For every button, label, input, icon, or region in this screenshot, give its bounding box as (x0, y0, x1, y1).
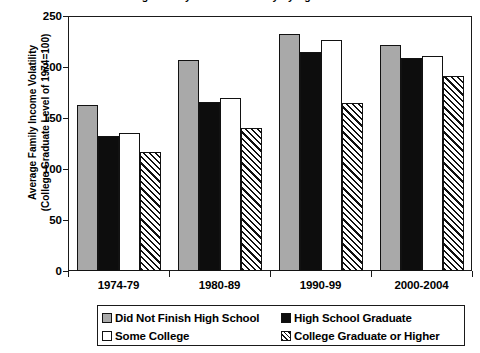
bar (279, 34, 300, 271)
legend-item-3: College Graduate or Higher (281, 327, 460, 345)
bar (401, 58, 422, 271)
x-axis-labels: 1974-791980-891990-992000-2004 (68, 279, 472, 291)
bar (140, 152, 161, 271)
bar-group (371, 16, 472, 271)
x-axis-tick-mark (68, 271, 69, 277)
y-axis-tick-label: 150 (0, 113, 62, 123)
x-axis-tick-label: 1990-99 (270, 279, 371, 291)
bar (241, 128, 262, 271)
chart-title: Average Family Income Volatility by Age … (62, 0, 480, 2)
bar (98, 136, 119, 271)
x-axis-ticks (68, 271, 472, 277)
y-axis-title-line-1: Average Family Income Volatility (27, 0, 40, 248)
legend-swatch-white-icon (102, 331, 112, 341)
bar-groups (68, 16, 472, 271)
bar (380, 45, 401, 271)
x-axis-tick-label: 1974-79 (68, 279, 169, 291)
bar (300, 52, 321, 271)
legend-label-3: College Graduate or Higher (294, 330, 440, 342)
y-axis-tick-label: 250 (0, 11, 62, 21)
bar-group (68, 16, 169, 271)
y-axis-tick-label: 0 (0, 266, 62, 276)
x-axis-tick-mark (169, 271, 170, 277)
bar (342, 103, 363, 271)
legend-label-2: Some College (115, 330, 189, 342)
bar (199, 102, 220, 271)
bar (220, 98, 241, 271)
bar-group (169, 16, 270, 271)
x-axis-tick-mark (371, 271, 372, 277)
legend-swatch-gray-icon (102, 313, 112, 323)
x-axis-tick-mark (270, 271, 271, 277)
bar-group (270, 16, 371, 271)
income-volatility-bar-chart: Average Family Income Volatility by Age … (0, 0, 480, 353)
legend-item-2: Some College (102, 327, 281, 345)
legend-item-1: High School Graduate (281, 309, 460, 327)
legend-item-0: Did Not Finish High School (102, 309, 281, 327)
bar (178, 60, 199, 271)
legend-label-0: Did Not Finish High School (115, 312, 259, 324)
bar (321, 40, 342, 271)
x-axis-tick-label: 1980-89 (169, 279, 270, 291)
y-axis-tick-label: 50 (0, 215, 62, 225)
legend-swatch-black-icon (281, 313, 291, 323)
bar (119, 133, 140, 271)
bar (422, 56, 443, 271)
bar (443, 76, 464, 271)
x-axis-tick-mark (472, 271, 473, 277)
legend-label-1: High School Graduate (294, 312, 412, 324)
bar (77, 105, 98, 271)
legend-swatch-hatched-icon (281, 331, 291, 341)
y-axis-tick-label: 200 (0, 62, 62, 72)
y-axis-tick-label: 100 (0, 164, 62, 174)
x-axis-tick-label: 2000-2004 (371, 279, 472, 291)
chart-legend: Did Not Finish High School High School G… (97, 305, 465, 346)
